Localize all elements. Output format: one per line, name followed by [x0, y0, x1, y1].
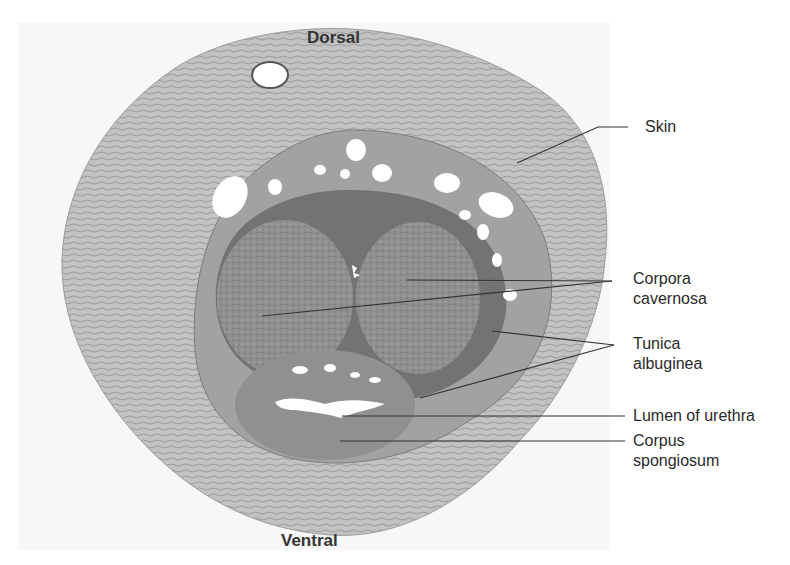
corpus-cavernosum-right	[356, 222, 480, 374]
orientation-ventral: Ventral	[281, 531, 338, 551]
histology-figure: Dorsal Ventral Skin Corpora cavernosa Tu…	[0, 0, 790, 565]
label-skin: Skin	[645, 117, 676, 137]
label-corpus-spongiosum: Corpus spongiosum	[633, 431, 719, 471]
label-corpora-cavernosa: Corpora cavernosa	[633, 269, 707, 309]
orientation-dorsal: Dorsal	[307, 28, 360, 48]
label-lumen-of-urethra: Lumen of urethra	[633, 406, 755, 426]
label-tunica-albuginea: Tunica albuginea	[633, 334, 702, 374]
